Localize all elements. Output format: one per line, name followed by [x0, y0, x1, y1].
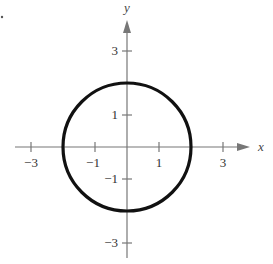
- x-tick-label: 3: [220, 155, 227, 170]
- x-tick-label: −1: [86, 155, 100, 170]
- y-tick-label: −3: [104, 235, 118, 250]
- y-axis: 3 1 −1 −3 y: [104, 0, 132, 258]
- figure-label-mark: [1, 16, 3, 18]
- y-tick-label: 1: [112, 107, 119, 122]
- x-axis-arrow-icon: [237, 143, 250, 151]
- x-tick-label: −3: [24, 155, 38, 170]
- y-axis-label: y: [122, 0, 130, 15]
- y-tick-label: −1: [104, 171, 118, 186]
- x-axis: −3 −1 1 3 x: [15, 139, 264, 170]
- chart-canvas: −3 −1 1 3 x 3 1 −1 −3 y: [0, 0, 273, 264]
- x-axis-label: x: [257, 139, 264, 154]
- x-tick-label: 1: [156, 155, 163, 170]
- y-axis-arrow-icon: [123, 20, 131, 33]
- y-tick-label: 3: [112, 43, 119, 58]
